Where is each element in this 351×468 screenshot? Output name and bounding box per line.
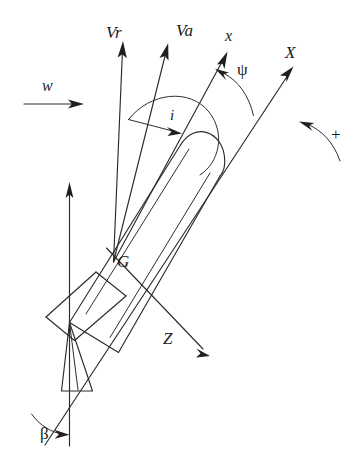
angle-arc-drift (32, 414, 70, 439)
diagram-canvas: Vr Va x X ψ i w + G Z β (0, 0, 351, 468)
vector-x-body-axis (114, 52, 228, 263)
ship-hull (70, 132, 225, 353)
diagram-vector-layer (0, 0, 351, 468)
vector-w-current (24, 100, 84, 109)
label-w-current: w (42, 78, 53, 94)
vector-vr (114, 41, 127, 262)
label-beta-drift-angle: β (40, 425, 49, 442)
label-i-incidence-angle: i (170, 108, 174, 123)
label-Z-earth-axis: Z (163, 330, 172, 347)
label-va: Va (176, 22, 193, 39)
vector-X-earth-axis (45, 67, 294, 446)
label-vr: Vr (106, 24, 122, 41)
label-x-body-axis: x (225, 28, 232, 44)
vertical-reference-axis (66, 182, 74, 446)
ship-deck-outline (86, 149, 210, 338)
label-psi-heading-angle: ψ (237, 61, 248, 78)
label-G-center-of-gravity: G (117, 253, 129, 270)
label-positive-rotation: + (331, 126, 341, 143)
label-X-earth-axis: X (285, 44, 295, 61)
